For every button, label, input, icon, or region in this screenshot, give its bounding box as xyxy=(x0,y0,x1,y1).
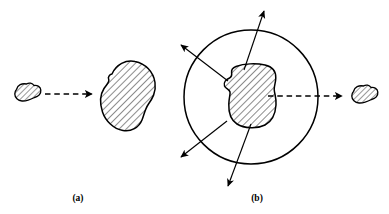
figure-canvas: (a) (b) xyxy=(0,0,389,214)
background xyxy=(0,0,389,214)
panel-b-label: (b) xyxy=(251,193,263,204)
panel-a-label: (a) xyxy=(72,193,83,204)
